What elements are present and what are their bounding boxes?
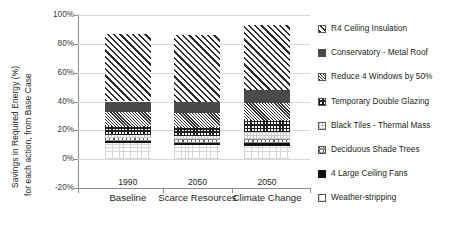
legend-item-6[interactable]: 4 Large Ceiling Fans: [318, 167, 459, 191]
x-label-category-1: Scarce Resources: [157, 192, 237, 204]
x-label-category-2: Climate Change: [227, 192, 307, 204]
legend-item-5[interactable]: Deciduous Shade Trees: [318, 143, 459, 167]
bar-segment-4-large-ceiling-fans[interactable]: [174, 143, 220, 145]
x-label-year-2: 2050: [232, 177, 302, 187]
y-tick-label-3: 40%: [40, 97, 74, 106]
bar-segment-conservatory-metal-roof[interactable]: [105, 102, 151, 112]
legend-item-label-0: R4 Ceiling Insulation: [331, 23, 407, 33]
legend-item-label-1: Conservatory - Metal Roof: [331, 47, 428, 57]
chart-root: Savings in Required Energy (%) for each …: [0, 0, 459, 226]
legend-item-2[interactable]: Reduce 4 Windows by 50%: [318, 70, 459, 94]
legend-item-1[interactable]: Conservatory - Metal Roof: [318, 46, 459, 70]
bar-baseline[interactable]: [105, 15, 151, 188]
x-label-category-0: Baseline: [88, 192, 168, 204]
y-tick-label-4: 20%: [40, 125, 74, 134]
bar-segment-weather-stripping[interactable]: [174, 145, 220, 159]
bar-segment-conservatory-metal-roof[interactable]: [244, 90, 290, 103]
bar-segment-reduce-4-windows-by-50[interactable]: [244, 103, 290, 120]
bar-segment-weather-stripping[interactable]: [105, 143, 151, 160]
swatch-faint-speckle-icon: [318, 194, 326, 202]
bar-climate-change[interactable]: [244, 15, 290, 188]
bar-segment-4-large-ceiling-fans[interactable]: [244, 143, 290, 146]
swatch-diagonal-hatch-wide-icon: [318, 25, 326, 33]
y-axis-title-line2: for each action, from Base Case: [23, 73, 33, 196]
y-axis-tick-labels: 100%80%60%40%20%0%-20%: [34, 15, 74, 188]
plot-area: [78, 15, 310, 188]
y-tick-label-1: 80%: [40, 39, 74, 48]
legend-item-7[interactable]: Weather-stripping: [318, 191, 459, 215]
bar-segment-r4-ceiling-insulation[interactable]: [244, 25, 290, 90]
bar-segment-deciduous-shade-trees[interactable]: [174, 139, 220, 143]
bar-segment-black-tiles-thermal-mass[interactable]: [174, 136, 220, 139]
y-tick-label-0: 100%: [40, 10, 74, 19]
swatch-cross-grid-icon: [318, 98, 326, 106]
swatch-solid-dark-icon: [318, 49, 326, 57]
chart-legend: R4 Ceiling InsulationConservatory - Meta…: [318, 22, 459, 216]
legend-item-label-3: Temporary Double Glazing: [331, 96, 429, 106]
bar-scarce-resources[interactable]: [174, 15, 220, 188]
y-tick-label-6: -20%: [40, 183, 74, 192]
bar-segment-deciduous-shade-trees[interactable]: [244, 139, 290, 143]
bar-segment-4-large-ceiling-fans[interactable]: [105, 141, 151, 142]
bar-segment-conservatory-metal-roof[interactable]: [174, 102, 220, 113]
swatch-solid-black-icon: [318, 170, 326, 178]
bar-segment-reduce-4-windows-by-50[interactable]: [174, 113, 220, 127]
y-axis-title: Savings in Required Energy (%) for each …: [0, 0, 36, 200]
legend-item-label-7: Weather-stripping: [331, 192, 396, 202]
legend-item-label-4: Black Tiles - Thermal Mass: [331, 120, 430, 130]
x-tick-3: [310, 188, 311, 193]
legend-item-4[interactable]: Black Tiles - Thermal Mass: [318, 119, 459, 143]
bar-segment-deciduous-shade-trees[interactable]: [105, 138, 151, 141]
y-tick-label-5: 0%: [40, 154, 74, 163]
bar-segment-black-tiles-thermal-mass[interactable]: [105, 135, 151, 139]
legend-item-3[interactable]: Temporary Double Glazing: [318, 95, 459, 119]
x-tick-0: [78, 188, 79, 193]
legend-item-label-6: 4 Large Ceiling Fans: [331, 168, 408, 178]
x-label-year-0: 1990: [93, 177, 163, 187]
bar-segment-black-tiles-thermal-mass[interactable]: [244, 132, 290, 139]
bar-segment-r4-ceiling-insulation[interactable]: [174, 35, 220, 102]
swatch-light-dots-icon: [318, 122, 326, 130]
legend-item-label-5: Deciduous Shade Trees: [331, 144, 420, 154]
x-label-year-1: 2050: [162, 177, 232, 187]
swatch-diagonal-hatch-fine-icon: [318, 73, 326, 81]
swatch-brick-dash-icon: [318, 146, 326, 154]
bar-segment-temporary-double-glazing[interactable]: [105, 126, 151, 135]
bar-segment-weather-stripping[interactable]: [244, 146, 290, 159]
y-tick-label-2: 60%: [40, 68, 74, 77]
legend-item-0[interactable]: R4 Ceiling Insulation: [318, 22, 459, 46]
bar-segment-temporary-double-glazing[interactable]: [174, 127, 220, 136]
x-axis-line: [78, 188, 310, 189]
bar-segment-r4-ceiling-insulation[interactable]: [105, 34, 151, 102]
y-axis-title-line1: Savings in Required Energy (%): [10, 66, 20, 188]
legend-item-label-2: Reduce 4 Windows by 50%: [331, 71, 432, 81]
bar-segment-reduce-4-windows-by-50[interactable]: [105, 112, 151, 126]
bar-segment-temporary-double-glazing[interactable]: [244, 120, 290, 132]
